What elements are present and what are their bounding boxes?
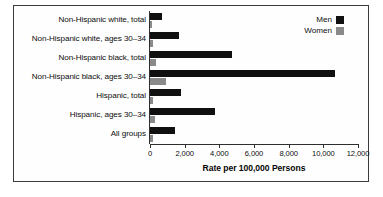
bar-men <box>150 70 335 77</box>
category-label: All groups <box>18 129 146 138</box>
x-tick-mark <box>150 144 151 148</box>
category-label: Non-Hispanic white, total <box>18 15 146 24</box>
bar-men <box>150 108 215 115</box>
x-tick-mark <box>219 144 220 148</box>
bar-women <box>150 40 153 47</box>
legend-label: Men <box>316 15 332 24</box>
x-tick-mark <box>185 144 186 148</box>
x-axis-title: Rate per 100,000 Persons <box>150 163 358 173</box>
x-tick-label: 4,000 <box>210 149 229 158</box>
bar-men <box>150 127 175 134</box>
legend-label: Women <box>304 26 332 35</box>
bar-women <box>150 116 155 123</box>
bar-women <box>150 97 153 104</box>
bar-women <box>150 21 152 28</box>
chart-figure: Non-Hispanic white, totalNon-Hispanic wh… <box>0 0 383 197</box>
x-tick-mark <box>358 144 359 148</box>
x-tick-mark <box>254 144 255 148</box>
bar-women <box>150 78 166 85</box>
category-label: Hispanic, total <box>18 91 146 100</box>
x-tick-label: 0 <box>148 149 152 158</box>
category-label: Hispanic, ages 30–34 <box>18 110 146 119</box>
bar-men <box>150 89 181 96</box>
x-tick-mark <box>289 144 290 148</box>
category-axis-labels: Non-Hispanic white, totalNon-Hispanic wh… <box>18 11 146 144</box>
bar-men <box>150 51 232 58</box>
x-tick-label: 8,000 <box>279 149 298 158</box>
category-label: Non-Hispanic white, ages 30–34 <box>18 34 146 43</box>
bar-women <box>150 59 156 66</box>
bar-women <box>150 135 153 142</box>
x-tick-label: 12,000 <box>347 149 370 158</box>
x-tick-label: 6,000 <box>245 149 264 158</box>
x-tick-label: 2,000 <box>175 149 194 158</box>
x-tick-mark <box>323 144 324 148</box>
bar-men <box>150 13 162 20</box>
chart-legend: MenWomen <box>282 14 344 36</box>
legend-item-women: Women <box>282 25 344 36</box>
x-tick-label: 10,000 <box>312 149 335 158</box>
bar-men <box>150 32 179 39</box>
category-label: Non-Hispanic black, ages 30–34 <box>18 72 146 81</box>
category-label: Non-Hispanic black, total <box>18 53 146 62</box>
legend-swatch-icon <box>336 27 344 35</box>
legend-item-men: Men <box>282 14 344 25</box>
legend-swatch-icon <box>336 16 344 24</box>
